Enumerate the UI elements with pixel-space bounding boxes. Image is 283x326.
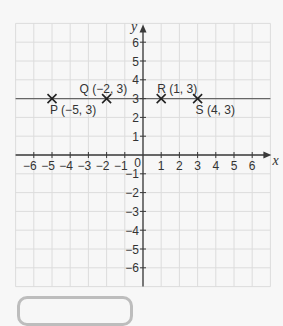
y-axis-arrow-icon xyxy=(140,24,147,32)
y-tick-label: 3 xyxy=(132,92,139,106)
x-tick-label: −4 xyxy=(59,159,73,173)
x-tick-label: −5 xyxy=(41,159,55,173)
y-tick-label: 6 xyxy=(132,36,139,50)
axes: xy xyxy=(16,19,280,286)
y-tick-label: 1 xyxy=(132,130,139,144)
y-tick-label: −5 xyxy=(125,243,139,257)
point-label: R (1, 3) xyxy=(157,82,197,96)
point-q: Q (−2, 3) xyxy=(80,82,128,104)
point-label: P (−5, 3) xyxy=(50,103,96,117)
x-tick-label: −3 xyxy=(78,159,92,173)
y-tick-label: −2 xyxy=(125,186,139,200)
x-tick-label: −2 xyxy=(96,159,110,173)
x-axis-label: x xyxy=(271,153,279,168)
x-tick-label: 3 xyxy=(194,159,201,173)
y-tick-label: −4 xyxy=(125,224,139,238)
x-tick-label: 1 xyxy=(158,159,165,173)
x-tick-label: 4 xyxy=(212,159,219,173)
point-label: S (4, 3) xyxy=(196,103,235,117)
point-s: S (4, 3) xyxy=(193,94,235,117)
point-r: R (1, 3) xyxy=(157,82,198,104)
x-tick-label: 6 xyxy=(249,159,256,173)
y-tick-label: −3 xyxy=(125,205,139,219)
y-tick-label: 2 xyxy=(132,111,139,125)
y-tick-label: 4 xyxy=(132,73,139,87)
point-label: Q (−2, 3) xyxy=(80,82,128,96)
answer-box[interactable] xyxy=(17,296,133,326)
y-axis-label: y xyxy=(129,19,138,34)
x-tick-label: 5 xyxy=(231,159,238,173)
origin-label: 0 xyxy=(134,156,141,170)
x-tick-label: −6 xyxy=(23,159,37,173)
y-tick-label: −6 xyxy=(125,261,139,275)
y-tick-label: 5 xyxy=(132,55,139,69)
x-tick-label: 2 xyxy=(176,159,183,173)
